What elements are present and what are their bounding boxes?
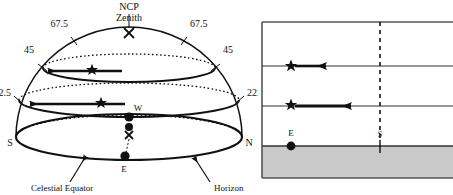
zenith-ncp-marker bbox=[124, 28, 134, 38]
label-zenith: Zenith bbox=[116, 12, 142, 23]
panel-label-south: S bbox=[378, 130, 382, 139]
tick-67-5-right bbox=[181, 37, 187, 45]
left-celestial-sphere-diagram: NCP Zenith 67.5 67.5 45 45 22.5 22.5 S N… bbox=[0, 0, 258, 195]
label-west: W bbox=[134, 103, 143, 113]
panel-east-dot bbox=[287, 142, 296, 151]
altitude-circle-22-5-far bbox=[19, 83, 239, 100]
ground-shaded-region bbox=[262, 146, 453, 178]
horizon-leader bbox=[194, 157, 210, 182]
celestial-equator-leader bbox=[70, 156, 86, 182]
label-altitude-22-5-left: 22.5 bbox=[0, 87, 11, 98]
dot-upper-meridian bbox=[124, 112, 133, 121]
right-horizon-box-panel: E S bbox=[258, 0, 453, 195]
label-altitude-67-5-left: 67.5 bbox=[51, 18, 69, 29]
tick-22-5-right bbox=[236, 96, 244, 103]
tick-22-5-left bbox=[14, 96, 22, 103]
observer-cross-marker bbox=[125, 131, 133, 139]
label-east: E bbox=[121, 164, 127, 174]
label-celestial-equator: Celestial Equator bbox=[31, 183, 93, 193]
label-altitude-22-5-right: 22.5 bbox=[247, 87, 258, 98]
east-dot-connector bbox=[126, 139, 129, 153]
label-ncp: NCP bbox=[119, 1, 139, 12]
star-lower bbox=[95, 97, 107, 108]
dot-east-horizon bbox=[120, 151, 129, 160]
tick-67-5-left bbox=[71, 37, 77, 45]
label-altitude-45-right: 45 bbox=[223, 44, 233, 55]
panel-star-lower bbox=[285, 99, 297, 111]
label-altitude-45-left: 45 bbox=[24, 44, 34, 55]
panel-label-east: E bbox=[288, 128, 294, 138]
dot-mid-meridian bbox=[125, 123, 133, 131]
label-horizon: Horizon bbox=[214, 183, 244, 193]
star-upper bbox=[86, 64, 98, 75]
altitude-circle-45-far bbox=[43, 54, 215, 68]
label-south: S bbox=[7, 137, 13, 148]
label-north: N bbox=[245, 137, 252, 148]
label-altitude-67-5-right: 67.5 bbox=[190, 18, 208, 29]
